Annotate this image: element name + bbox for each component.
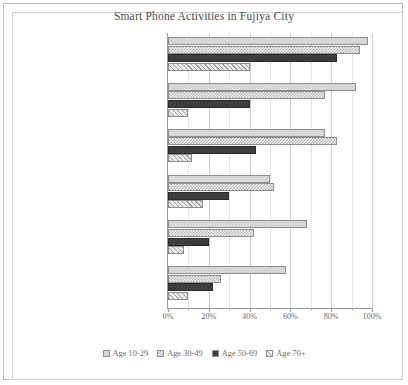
bar <box>168 46 360 54</box>
legend-swatch-icon <box>266 350 273 357</box>
bar-group <box>168 79 372 125</box>
bar <box>168 154 192 162</box>
bar <box>168 275 221 283</box>
bar-group <box>168 262 372 308</box>
x-tick-mark <box>168 308 169 312</box>
x-tick-label: 0% <box>148 312 188 321</box>
gridline-major-100 <box>372 33 373 308</box>
legend-swatch-icon <box>103 350 110 357</box>
legend-label: Age 50-69 <box>222 349 258 358</box>
x-tick-label: 60% <box>270 312 310 321</box>
x-tick-label: 40% <box>230 312 270 321</box>
x-tick-mark <box>209 308 210 312</box>
bar <box>168 146 256 154</box>
legend-swatch-icon <box>157 350 164 357</box>
bar <box>168 283 213 291</box>
bar <box>168 292 188 300</box>
legend-swatch-icon <box>212 350 219 357</box>
chart-title: Smart Phone Activities in Fujiya City <box>0 10 408 22</box>
bar <box>168 246 184 254</box>
bar-group <box>168 216 372 262</box>
bar <box>168 83 356 91</box>
bar <box>168 200 203 208</box>
bar <box>168 63 250 71</box>
x-tick-mark-minor <box>352 308 353 311</box>
x-tick-mark-minor <box>311 308 312 311</box>
x-tick-mark-minor <box>188 308 189 311</box>
legend-label: Age 70+ <box>276 349 305 358</box>
x-tick-label: 80% <box>311 312 351 321</box>
bar-group <box>168 171 372 217</box>
legend-label: Age 10-29 <box>113 349 149 358</box>
plot-area <box>168 33 372 308</box>
bar <box>168 91 325 99</box>
bar <box>168 229 254 237</box>
x-tick-mark-minor <box>229 308 230 311</box>
bar <box>168 183 274 191</box>
bar <box>168 266 286 274</box>
x-tick-label: 100% <box>352 312 392 321</box>
bar <box>168 175 270 183</box>
bar <box>168 37 368 45</box>
bar <box>168 220 307 228</box>
legend-label: Age 30-49 <box>167 349 203 358</box>
bar <box>168 129 325 137</box>
legend-item[interactable]: Age 50-69 <box>212 349 258 358</box>
bar-group <box>168 125 372 171</box>
x-tick-mark <box>331 308 332 312</box>
x-tick-mark <box>290 308 291 312</box>
x-tick-mark <box>372 308 373 312</box>
bar <box>168 238 209 246</box>
legend-item[interactable]: Age 70+ <box>266 349 305 358</box>
bar <box>168 100 250 108</box>
bar-group <box>168 33 372 79</box>
bar <box>168 109 188 117</box>
legend-item[interactable]: Age 10-29 <box>103 349 149 358</box>
legend-item[interactable]: Age 30-49 <box>157 349 203 358</box>
x-tick-mark-minor <box>270 308 271 311</box>
bar <box>168 54 337 62</box>
bar <box>168 192 229 200</box>
bar <box>168 137 337 145</box>
chart-legend: Age 10-29Age 30-49Age 50-69Age 70+ <box>0 349 408 358</box>
x-tick-mark <box>250 308 251 312</box>
x-tick-label: 20% <box>189 312 229 321</box>
